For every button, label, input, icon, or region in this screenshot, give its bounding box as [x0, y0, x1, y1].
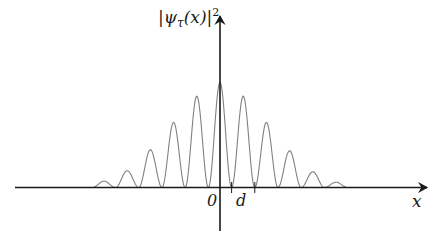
d-tick-label: d: [236, 191, 246, 210]
x-axis-label: x: [412, 191, 422, 211]
origin-label: 0: [207, 191, 217, 210]
wavefunction-plot: |ψτ(x)|2 0 d x: [0, 0, 436, 242]
y-axis-label: |ψτ(x)|2: [158, 6, 219, 30]
